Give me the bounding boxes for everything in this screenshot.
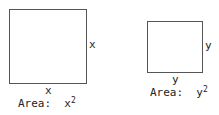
square-x	[9, 9, 87, 84]
area-prefix: Area:	[150, 86, 196, 99]
area-prefix: Area:	[18, 97, 64, 110]
square-y-bottom-label: y	[172, 74, 179, 85]
square-x-area: Area: x2	[18, 98, 76, 110]
area-exponent: 2	[71, 96, 76, 105]
area-base: y	[196, 86, 203, 99]
area-base: x	[64, 97, 71, 110]
square-x-right-label: x	[89, 39, 96, 50]
square-x-bottom-label: x	[45, 85, 52, 96]
area-exponent: 2	[203, 85, 208, 94]
square-y-area: Area: y2	[150, 87, 208, 99]
square-y	[147, 21, 203, 73]
square-y-right-label: y	[205, 40, 212, 51]
